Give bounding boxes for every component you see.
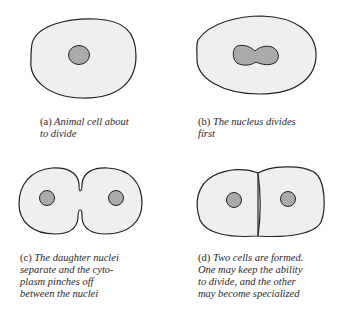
caption-b: (b) The nucleus divides first <box>198 116 296 140</box>
panel-label: (d) <box>198 252 210 263</box>
caption-line: to divide, and the other <box>198 276 303 288</box>
caption-line: One may keep the ability <box>198 264 303 276</box>
caption-line: to divide <box>40 128 129 140</box>
panel-b-cell <box>197 16 316 94</box>
nucleus-left <box>227 193 242 208</box>
caption-line: (c) The daughter nuclei <box>20 252 119 264</box>
panel-d-cells <box>197 167 324 237</box>
nucleus-right <box>109 191 124 206</box>
panel-label: (a) <box>40 116 52 127</box>
panel-label: (c) <box>20 252 32 263</box>
pinching-cell-membrane <box>19 168 142 234</box>
nucleus-left <box>40 191 55 206</box>
panel-a-cell <box>31 19 136 98</box>
caption-line: (b) The nucleus divides <box>198 116 296 128</box>
caption-line: first <box>198 128 296 140</box>
caption-line: (a) Animal cell about <box>40 116 129 128</box>
caption-line: plasm pinches off <box>20 276 119 288</box>
caption-line: separate and the cyto- <box>20 264 119 276</box>
nucleus-right <box>281 192 296 207</box>
caption-d: (d) Two cells are formed. One may keep t… <box>198 252 303 300</box>
nucleus <box>69 46 90 65</box>
caption-line: (d) Two cells are formed. <box>198 252 303 264</box>
panel-c-cell <box>19 168 142 234</box>
caption-line: between the nuclei <box>20 288 119 300</box>
caption-line: may become specialized <box>198 288 303 300</box>
panel-label: (b) <box>198 116 210 127</box>
caption-c: (c) The daughter nuclei separate and the… <box>20 252 119 300</box>
caption-a: (a) Animal cell about to divide <box>40 116 129 140</box>
